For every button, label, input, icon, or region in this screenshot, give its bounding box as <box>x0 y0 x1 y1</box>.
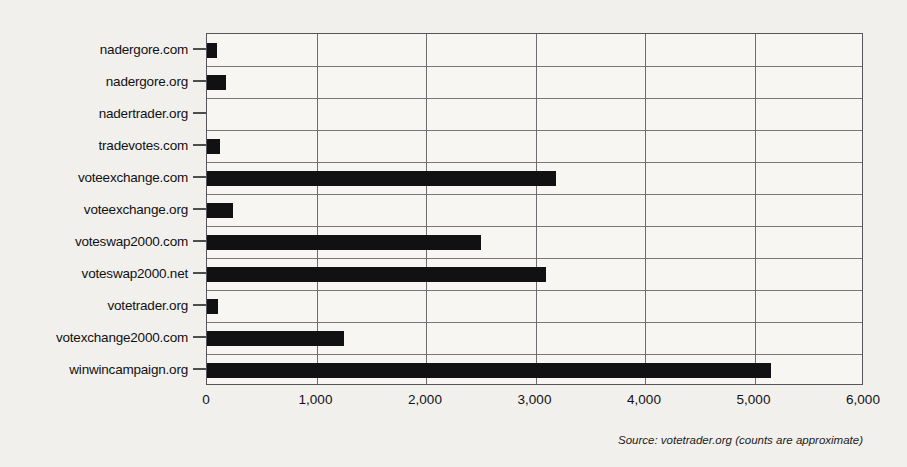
category-label-text: voteexchange.org <box>84 202 188 217</box>
bar-voteexchange.com <box>207 171 556 186</box>
bar-row <box>207 130 862 162</box>
category-label-voteexchange.org: voteexchange.org <box>84 193 206 225</box>
bar-voteswap2000.net <box>207 267 546 282</box>
bar-votexchange2000.com <box>207 331 344 346</box>
bar-chart-figure: nadergore.comnadergore.orgnadertrader.or… <box>0 0 907 467</box>
category-label-nadergore.com: nadergore.com <box>100 33 206 65</box>
category-label-text: votexchange2000.com <box>56 330 188 345</box>
bar-row <box>207 66 862 98</box>
bar-row <box>207 34 862 66</box>
category-tick-mark <box>193 80 206 82</box>
category-label-nadertrader.org: nadertrader.org <box>99 97 206 129</box>
bar-voteexchange.org <box>207 203 233 218</box>
bar-row <box>207 162 862 194</box>
bar-votetrader.org <box>207 299 218 314</box>
category-label-winwincampaign.org: winwincampaign.org <box>69 353 206 385</box>
bar-winwincampaign.org <box>207 363 771 378</box>
bar-nadergore.org <box>207 75 226 90</box>
category-tick-mark <box>193 112 206 114</box>
category-label-text: nadertrader.org <box>99 106 188 121</box>
bar-row <box>207 194 862 226</box>
category-tick-mark <box>193 208 206 210</box>
category-label-tradevotes.com: tradevotes.com <box>99 129 207 161</box>
bar-row <box>207 322 862 354</box>
category-label-text: winwincampaign.org <box>69 362 188 377</box>
category-label-text: voteswap2000.net <box>82 266 188 281</box>
category-label-text: tradevotes.com <box>99 138 189 153</box>
x-tick-label-6000: 6,000 <box>846 392 880 407</box>
x-tick-label-3000: 3,000 <box>518 392 552 407</box>
category-tick-mark <box>193 144 206 146</box>
category-axis-labels: nadergore.comnadergore.orgnadertrader.or… <box>0 33 206 385</box>
bar-row <box>207 354 862 386</box>
category-label-text: nadergore.org <box>106 74 188 89</box>
bar-row <box>207 290 862 322</box>
category-tick-mark <box>193 240 206 242</box>
bar-row <box>207 258 862 290</box>
bar-voteswap2000.com <box>207 235 481 250</box>
category-tick-mark <box>193 176 206 178</box>
x-tick-label-0: 0 <box>202 392 210 407</box>
x-tick-label-5000: 5,000 <box>737 392 771 407</box>
category-label-nadergore.org: nadergore.org <box>106 65 206 97</box>
x-tick-label-1000: 1,000 <box>299 392 333 407</box>
category-tick-mark <box>193 368 206 370</box>
x-tick-label-4000: 4,000 <box>627 392 661 407</box>
plot-area <box>206 33 863 385</box>
category-label-votetrader.org: votetrader.org <box>107 289 206 321</box>
category-tick-mark <box>193 304 206 306</box>
category-label-text: votetrader.org <box>107 298 188 313</box>
bars-layer <box>207 34 862 384</box>
category-tick-mark <box>193 336 206 338</box>
bar-tradevotes.com <box>207 139 220 154</box>
category-tick-mark <box>193 48 206 50</box>
category-label-text: voteexchange.com <box>78 170 188 185</box>
category-label-voteswap2000.net: voteswap2000.net <box>82 257 206 289</box>
category-label-text: voteswap2000.com <box>75 234 188 249</box>
category-label-voteswap2000.com: voteswap2000.com <box>75 225 206 257</box>
category-label-votexchange2000.com: votexchange2000.com <box>56 321 206 353</box>
bar-nadergore.com <box>207 43 217 58</box>
source-note: Source: votetrader.org (counts are appro… <box>618 434 863 446</box>
category-label-voteexchange.com: voteexchange.com <box>78 161 206 193</box>
category-tick-mark <box>193 272 206 274</box>
bar-row <box>207 226 862 258</box>
bar-row <box>207 98 862 130</box>
value-axis-labels: 01,0002,0003,0004,0005,0006,000 <box>0 392 907 416</box>
x-tick-label-2000: 2,000 <box>408 392 442 407</box>
category-label-text: nadergore.com <box>100 42 188 57</box>
